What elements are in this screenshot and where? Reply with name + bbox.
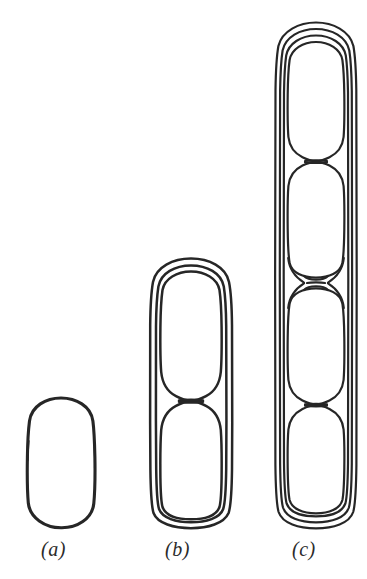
cell-b-lower	[160, 401, 221, 519]
panel-a-drawing	[27, 398, 95, 528]
cell-c-2	[288, 162, 345, 278]
figure-label-a: (a)	[41, 538, 66, 561]
division-septum-c-knot	[307, 282, 325, 283]
cell-a-wobble-left	[28, 441, 29, 460]
envelope-c-fold-right-upper	[328, 258, 344, 283]
septum-b-constriction	[179, 400, 203, 401]
cell-b-upper	[160, 272, 221, 401]
figure-label-c: (c)	[292, 538, 316, 561]
envelope-c-middle	[280, 29, 352, 522]
cell-c-3	[288, 288, 345, 404]
envelope-c-fold-left-upper	[288, 258, 304, 283]
envelope-b-inner	[156, 266, 227, 523]
septum-b-constriction-lower	[179, 402, 203, 403]
cell-a-outline	[27, 398, 95, 528]
cell-c-1	[288, 42, 345, 161]
panel-b-drawing	[150, 259, 232, 529]
cell-c-4	[288, 405, 345, 513]
figure-label-b: (b)	[165, 538, 190, 561]
bacterial-division-figure	[0, 0, 367, 579]
envelope-c-inner	[284, 36, 349, 517]
panel-c-drawing	[275, 23, 357, 529]
